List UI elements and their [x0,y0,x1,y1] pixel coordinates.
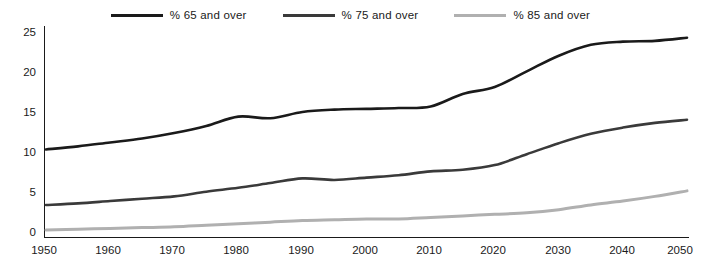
legend-item-65: % 65 and over [111,9,247,21]
x-tick-2050: 2050 [660,244,700,256]
y-tick-0: 0 [2,226,36,238]
legend-swatch-75 [283,14,335,17]
x-tick-1970: 1970 [152,244,192,256]
legend-item-75: % 75 and over [283,9,419,21]
x-tick-1980: 1980 [216,244,256,256]
chart-svg [44,26,689,238]
legend-swatch-65 [111,14,163,17]
x-tick-1960: 1960 [88,244,128,256]
x-tick-2040: 2040 [602,244,642,256]
x-tick-2020: 2020 [473,244,513,256]
x-tick-2030: 2030 [538,244,578,256]
y-tick-20: 20 [2,66,36,78]
y-tick-15: 15 [2,106,36,118]
legend-item-85: % 85 and over [454,9,590,21]
y-tick-5: 5 [2,186,36,198]
series-line-85-and-over [46,191,687,230]
x-tick-2010: 2010 [409,244,449,256]
chart-legend: % 65 and over % 75 and over % 85 and ove… [0,4,701,26]
x-axis-ticks [46,237,687,238]
x-tick-1950: 1950 [24,244,64,256]
legend-swatch-85 [454,14,506,17]
plot-area [44,26,689,238]
legend-label-85: % 85 and over [513,9,590,21]
x-tick-2000: 2000 [345,244,385,256]
x-tick-1990: 1990 [281,244,321,256]
legend-label-75: % 75 and over [342,9,419,21]
y-tick-25: 25 [2,26,36,38]
series-line-75-and-over [46,120,687,205]
chart-container: % 65 and over % 75 and over % 85 and ove… [0,0,701,271]
legend-label-65: % 65 and over [170,9,247,21]
y-tick-10: 10 [2,146,36,158]
